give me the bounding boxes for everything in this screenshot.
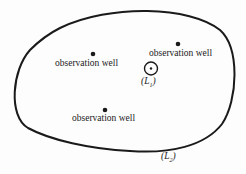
observation-well-label-2: observation well: [149, 49, 212, 59]
observation-well-label-1: observation well: [55, 59, 118, 69]
aquifer-diagram: observation well observation well observ…: [0, 0, 246, 174]
observation-well-label-3: observation well: [72, 114, 135, 124]
pumping-well-label: (L1): [141, 77, 156, 88]
observation-well-dot-1: [91, 52, 96, 57]
diagram-graphics: [0, 0, 246, 174]
observation-well-dot-2: [176, 42, 181, 47]
aquifer-boundary: [15, 11, 235, 152]
pumping-well-dot: [150, 67, 152, 69]
observation-well-dot-3: [103, 108, 108, 113]
boundary-label: (L2): [161, 152, 176, 163]
